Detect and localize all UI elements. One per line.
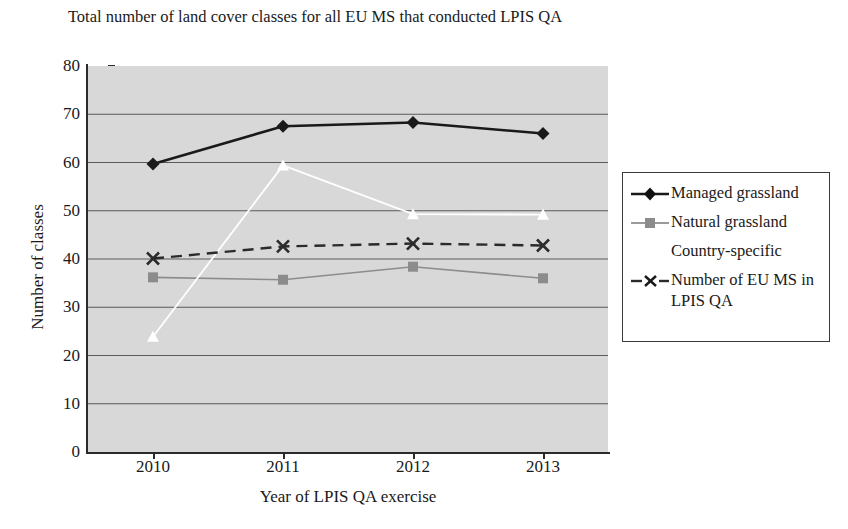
x-axis-tick-mark <box>543 452 545 459</box>
data-series-layer <box>147 116 550 342</box>
legend-marker-triangle-icon <box>629 241 671 263</box>
data-point-triangle <box>277 159 289 170</box>
series-line <box>153 122 543 163</box>
chart-title: Total number of land cover classes for a… <box>60 6 570 28</box>
legend-label: Number of EU MS in LPIS QA <box>671 269 821 311</box>
series-number-of-eu-ms-in-lpis-qa <box>147 238 549 265</box>
x-axis-tick-label: 2013 <box>498 457 588 477</box>
data-point-diamond <box>147 157 160 170</box>
y-axis-tick-label: 0 <box>34 442 80 462</box>
y-axis-tick-label: 70 <box>34 104 80 124</box>
data-point-square <box>408 262 418 272</box>
chart-legend: Managed grassland Natural grassland Coun… <box>622 172 830 342</box>
x-axis-tick-mark <box>153 452 155 459</box>
plot-area <box>88 66 608 452</box>
series-country-specific <box>147 159 549 341</box>
chart-figure: Total number of land cover classes for a… <box>0 0 848 529</box>
legend-item-number-of-eu-ms[interactable]: Number of EU MS in LPIS QA <box>623 269 829 311</box>
x-axis-tick-label: 2010 <box>108 457 198 477</box>
x-axis-tick-label: 2012 <box>368 457 458 477</box>
legend-item-natural-grassland[interactable]: Natural grassland <box>623 211 829 234</box>
x-axis-tick-mark <box>413 452 415 459</box>
data-point-diamond <box>277 120 290 133</box>
legend-label: Managed grassland <box>671 182 799 203</box>
data-point-square <box>278 275 288 285</box>
x-axis-line <box>86 452 610 454</box>
series-line <box>153 267 543 280</box>
legend-marker-x-icon <box>629 270 671 292</box>
x-axis-title: Year of LPIS QA exercise <box>88 487 608 507</box>
data-point-diamond <box>537 127 550 140</box>
legend-marker-square-icon <box>629 212 671 234</box>
plot-svg <box>88 66 608 452</box>
legend-item-managed-grassland[interactable]: Managed grassland <box>623 182 829 205</box>
legend-label: Natural grassland <box>671 211 787 232</box>
series-line <box>153 244 543 259</box>
legend-item-country-specific[interactable]: Country-specific <box>623 240 829 263</box>
y-axis-line <box>86 64 88 454</box>
legend-marker-diamond-icon <box>629 183 671 205</box>
x-axis-tick-mark <box>283 452 285 459</box>
data-point-square <box>538 273 548 283</box>
gridlines <box>88 66 608 404</box>
series-line <box>153 165 543 336</box>
data-point-diamond <box>407 116 420 129</box>
x-axis-tick-label: 2011 <box>238 457 328 477</box>
y-axis-tick-label: 80 <box>34 56 80 76</box>
y-axis-title: Number of classes <box>28 137 48 397</box>
data-point-square <box>148 272 158 282</box>
legend-label: Country-specific <box>671 240 782 261</box>
